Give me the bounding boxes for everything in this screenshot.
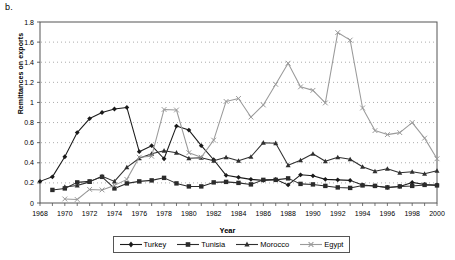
legend-marker-square-icon bbox=[177, 240, 199, 249]
x-axis-tick-label: 1972 bbox=[82, 210, 98, 217]
x-axis-tick-label: 1974 bbox=[107, 210, 123, 217]
y-axis-tick-label: 1.6 bbox=[24, 39, 34, 46]
data-point-tunisia bbox=[137, 179, 141, 183]
x-axis-tick-label: 1970 bbox=[57, 210, 73, 217]
legend-item-egypt: Egypt bbox=[300, 240, 343, 249]
x-axis-tick-label: 1996 bbox=[380, 210, 396, 217]
x-axis-tick-label: 1984 bbox=[231, 210, 247, 217]
data-point-tunisia bbox=[410, 184, 414, 188]
x-axis-tick-label: 2000 bbox=[429, 210, 445, 217]
y-axis-tick-label: 1.4 bbox=[24, 59, 34, 66]
x-axis-tick-label: 1968 bbox=[32, 210, 48, 217]
data-point-tunisia bbox=[125, 181, 129, 185]
legend-label-turkey: Turkey bbox=[144, 240, 167, 249]
data-point-tunisia bbox=[311, 182, 315, 186]
data-point-tunisia bbox=[211, 180, 215, 184]
y-axis-tick-label: 1 bbox=[30, 99, 34, 106]
data-point-tunisia bbox=[236, 181, 240, 185]
data-point-tunisia bbox=[249, 182, 253, 186]
legend-marker-triangle-icon bbox=[236, 240, 258, 249]
legend-item-morocco: Morocco bbox=[236, 240, 289, 249]
y-axis-tick-label: 0 bbox=[30, 200, 34, 207]
data-point-tunisia bbox=[199, 184, 203, 188]
y-axis-tick-label: 1.2 bbox=[24, 79, 34, 86]
legend-item-turkey: Turkey bbox=[120, 240, 167, 249]
data-point-tunisia bbox=[274, 178, 278, 182]
legend-label-egypt: Egypt bbox=[324, 240, 343, 249]
x-axis-tick-label: 1980 bbox=[181, 210, 197, 217]
data-point-tunisia bbox=[286, 176, 290, 180]
legend-label-morocco: Morocco bbox=[260, 240, 289, 249]
x-axis-tick-label: 1998 bbox=[404, 210, 420, 217]
data-point-tunisia bbox=[174, 181, 178, 185]
data-point-tunisia bbox=[323, 184, 327, 188]
x-axis-tick-label: 1990 bbox=[305, 210, 321, 217]
y-axis-tick-label: 0.2 bbox=[24, 179, 34, 186]
x-axis-tick-label: 1986 bbox=[256, 210, 272, 217]
x-axis-tick-label: 1982 bbox=[206, 210, 222, 217]
x-axis-tick-label: 1992 bbox=[330, 210, 346, 217]
legend-marker-cross-icon bbox=[300, 240, 322, 249]
x-axis-tick-label: 1994 bbox=[355, 210, 371, 217]
data-point-tunisia bbox=[336, 185, 340, 189]
data-point-tunisia bbox=[149, 178, 153, 182]
data-point-tunisia bbox=[435, 183, 439, 187]
y-axis-tick-label: 0.8 bbox=[24, 119, 34, 126]
x-axis-tick-label: 1976 bbox=[131, 210, 147, 217]
y-axis-tick-label: 0.4 bbox=[24, 159, 34, 166]
data-point-tunisia bbox=[50, 188, 54, 192]
data-point-tunisia bbox=[398, 184, 402, 188]
x-axis-tick-label: 1988 bbox=[280, 210, 296, 217]
data-point-tunisia bbox=[261, 178, 265, 182]
y-axis-tick-label: 0.6 bbox=[24, 139, 34, 146]
data-point-tunisia bbox=[224, 180, 228, 184]
data-point-tunisia bbox=[422, 183, 426, 187]
data-point-tunisia bbox=[373, 184, 377, 188]
legend-marker-diamond-icon bbox=[120, 240, 142, 249]
y-axis-tick-label: 1.8 bbox=[24, 19, 34, 26]
data-point-tunisia bbox=[348, 186, 352, 190]
data-point-tunisia bbox=[162, 176, 166, 180]
chart-legend: Turkey Tunisia Morocco Egypt bbox=[113, 236, 350, 253]
data-point-tunisia bbox=[360, 183, 364, 187]
data-point-tunisia bbox=[187, 184, 191, 188]
chart-plot: 00.20.40.60.811.21.41.61.819681970197219… bbox=[0, 0, 455, 260]
figure-panel-b: b. Remittances on exports Year 00.20.40.… bbox=[0, 0, 455, 260]
x-axis-tick-label: 1978 bbox=[156, 210, 172, 217]
data-point-tunisia bbox=[298, 182, 302, 186]
legend-item-tunisia: Tunisia bbox=[177, 240, 225, 249]
data-point-tunisia bbox=[385, 185, 389, 189]
legend-label-tunisia: Tunisia bbox=[201, 240, 225, 249]
